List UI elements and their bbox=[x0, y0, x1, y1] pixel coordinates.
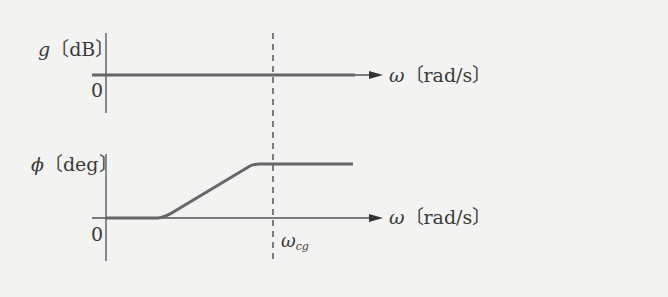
gain-symbol: g bbox=[38, 38, 50, 60]
phase-axis-label: ϕ〔deg〕 bbox=[31, 155, 118, 174]
crossover-frequency-label: ωcg bbox=[281, 232, 309, 252]
phase-x-axis-label: ω〔rad/s〕 bbox=[389, 208, 491, 227]
omega-unit: 〔rad/s〕 bbox=[405, 206, 492, 228]
gain-unit: 〔dB〕 bbox=[50, 38, 114, 60]
omega-symbol: ω bbox=[389, 206, 405, 228]
phase-symbol: ϕ bbox=[31, 153, 44, 175]
phase-curve bbox=[106, 164, 353, 218]
phase-zero-label: 0 bbox=[91, 225, 103, 244]
gain-x-axis-label: ω〔rad/s〕 bbox=[389, 66, 491, 85]
omega-unit: 〔rad/s〕 bbox=[405, 64, 492, 86]
cg-subscript: cg bbox=[296, 240, 309, 253]
omega-symbol: ω bbox=[281, 230, 296, 251]
phase-unit: 〔deg〕 bbox=[44, 153, 118, 175]
gain-zero-label: 0 bbox=[91, 81, 103, 100]
gain-axis-label: g〔dB〕 bbox=[38, 40, 114, 59]
gain-x-arrow-icon bbox=[369, 71, 383, 79]
omega-symbol: ω bbox=[389, 64, 405, 86]
phase-x-arrow-icon bbox=[369, 214, 383, 222]
